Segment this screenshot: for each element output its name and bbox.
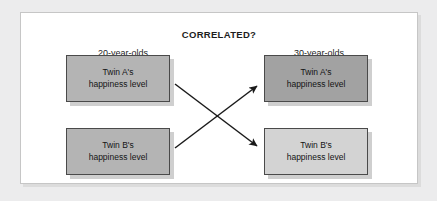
diagram-root: CORRELATED? 20-year-olds 30-year-olds Tw…: [0, 0, 437, 201]
node-left-twin-b[interactable]: Twin B's happiness level: [66, 128, 170, 175]
node-right-twin-b[interactable]: Twin B's happiness level: [264, 128, 368, 175]
node-left-twin-a[interactable]: Twin A's happiness level: [66, 55, 170, 102]
node-right-twin-a[interactable]: Twin A's happiness level: [264, 55, 368, 102]
diagram-title: CORRELATED?: [21, 29, 417, 40]
node-label-left-twin-b: Twin B's happiness level: [89, 140, 148, 163]
node-label-left-twin-a: Twin A's happiness level: [89, 67, 148, 90]
node-label-right-twin-a: Twin A's happiness level: [287, 67, 346, 90]
node-label-right-twin-b: Twin B's happiness level: [287, 140, 346, 163]
